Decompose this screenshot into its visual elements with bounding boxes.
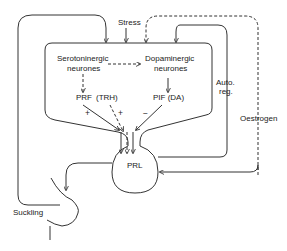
breast-outline (47, 178, 78, 226)
dopaminergic-label-2: neurones (154, 64, 187, 73)
auto-reg-label-2: reg. (219, 87, 233, 96)
pif-label: PIF (DA) (153, 93, 184, 102)
prf-sign: + (85, 108, 90, 118)
oestrogen-to-prl (160, 165, 258, 172)
trh-sign: + (118, 108, 123, 118)
auto-reg-label: Auto. (216, 78, 235, 87)
serotonergic-label: Serotoninergic (57, 54, 109, 63)
stress-label: Stress (118, 18, 141, 27)
oestrogen-label: Oestrogen (240, 114, 277, 123)
suckling-label: Suckling (13, 208, 43, 217)
prf-label: PRF (76, 93, 92, 102)
prl-label: PRL (127, 161, 143, 170)
prolactin-regulation-diagram: Stress Serotoninergic neurones Dopaminer… (0, 0, 287, 251)
pif-sign: − (143, 108, 148, 118)
trh-label: (TRH) (96, 93, 118, 102)
prl-to-breast-arrow (66, 163, 112, 190)
serotonergic-label-2: neurones (67, 64, 100, 73)
pif-to-prl-arrow (136, 105, 162, 130)
dopaminergic-label: Dopaminergic (145, 54, 194, 63)
